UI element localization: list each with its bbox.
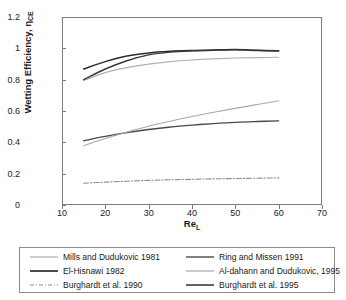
series-line <box>84 50 279 80</box>
legend-label: Burghardt et al. 1995 <box>219 280 298 290</box>
legend-swatch-icon <box>30 253 58 261</box>
y-axis-title: Wetting Efficiency, ηCE <box>22 0 35 142</box>
series-line <box>84 57 279 80</box>
legend-swatch-icon <box>186 281 214 289</box>
x-axis-title-text: Re <box>184 218 196 229</box>
x-axis-title-subscript: L <box>196 224 200 231</box>
y-tick-label: 1.2 <box>0 13 20 22</box>
chart-area: Wetting Efficiency, ηCE 00.20.40.60.811.… <box>0 0 346 232</box>
x-tick-mark <box>322 205 323 209</box>
legend-item: Burghardt et al. 1995 <box>176 280 336 290</box>
legend-label: Al-dahann and Dudukovic, 1995 <box>219 266 340 276</box>
x-tick-mark <box>62 205 63 209</box>
x-tick-label: 50 <box>215 209 255 218</box>
legend-item: Mills and Dudukovic 1981 <box>20 252 176 262</box>
x-tick-label: 30 <box>129 209 169 218</box>
x-tick-mark <box>192 205 193 209</box>
series-line <box>84 178 279 183</box>
legend-label: Mills and Dudukovic 1981 <box>63 252 160 262</box>
legend: Mills and Dudukovic 1981Ring and Missen … <box>19 247 335 293</box>
x-tick-label: 40 <box>172 209 212 218</box>
x-axis-title: ReL <box>62 218 322 231</box>
x-tick-label: 20 <box>85 209 125 218</box>
y-tick-label: 0.2 <box>0 169 20 178</box>
legend-swatch-icon <box>30 281 58 289</box>
x-tick-mark <box>279 205 280 209</box>
chart-curves <box>62 17 322 205</box>
legend-item: El-Hisnawi 1982 <box>20 266 176 276</box>
legend-swatch-icon <box>186 253 214 261</box>
y-axis-title-text: Wetting Efficiency, η <box>22 21 33 114</box>
x-tick-mark <box>105 205 106 209</box>
legend-grid: Mills and Dudukovic 1981Ring and Missen … <box>20 248 334 292</box>
legend-label: Ring and Missen 1991 <box>219 252 304 262</box>
legend-swatch-icon <box>186 267 214 275</box>
legend-item: Ring and Missen 1991 <box>176 252 336 262</box>
y-axis-title-subscript: CE <box>27 11 34 21</box>
y-tick-label: 0.4 <box>0 138 20 147</box>
y-tick-label: 1 <box>0 44 20 53</box>
series-line <box>84 121 279 141</box>
y-tick-label: 0.8 <box>0 75 20 84</box>
x-tick-label: 70 <box>302 209 342 218</box>
legend-swatch-icon <box>30 267 58 275</box>
legend-label: Burghardt et al. 1990 <box>63 280 142 290</box>
legend-item: Burghardt et al. 1990 <box>20 280 176 290</box>
legend-item: Al-dahann and Dudukovic, 1995 <box>176 266 336 276</box>
x-tick-label: 60 <box>259 209 299 218</box>
x-tick-mark <box>235 205 236 209</box>
y-tick-label: 0.6 <box>0 107 20 116</box>
figure: Wetting Efficiency, ηCE 00.20.40.60.811.… <box>0 0 346 300</box>
y-tick-label: 0 <box>0 201 20 210</box>
legend-label: El-Hisnawi 1982 <box>63 266 124 276</box>
series-line <box>84 101 279 146</box>
x-tick-label: 10 <box>42 209 82 218</box>
x-tick-mark <box>149 205 150 209</box>
